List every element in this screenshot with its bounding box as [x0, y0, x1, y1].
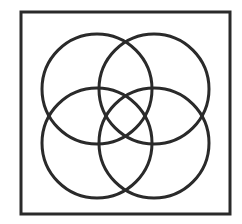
venn-diagram [0, 0, 242, 224]
circle-group [42, 34, 209, 198]
